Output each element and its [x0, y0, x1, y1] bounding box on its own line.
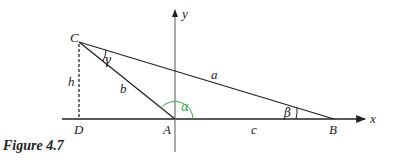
- figure-caption: Figure 4.7: [2, 138, 65, 153]
- side-c-label: c: [251, 122, 257, 137]
- point-b-label: B: [329, 122, 337, 137]
- side-a: [79, 42, 334, 119]
- point-a-label: A: [162, 122, 171, 137]
- point-c-label: C: [70, 30, 79, 45]
- side-b-label: b: [120, 81, 127, 96]
- x-axis-label: x: [369, 111, 376, 126]
- triangle-figure: C D A B a b c h γ α β x y Figure 4.7: [0, 0, 394, 162]
- beta-arc: [296, 108, 297, 119]
- side-a-label: a: [211, 67, 218, 82]
- gamma-label: γ: [104, 53, 112, 67]
- point-d-label: D: [73, 122, 84, 137]
- height-label: h: [68, 74, 75, 89]
- beta-label: β: [283, 106, 291, 120]
- alpha-label: α: [181, 100, 189, 114]
- y-axis-label: y: [180, 6, 188, 21]
- side-b: [79, 42, 175, 119]
